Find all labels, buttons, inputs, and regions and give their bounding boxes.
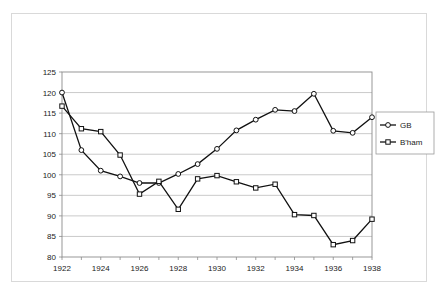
series-marker-b-ham: [60, 104, 64, 108]
x-tick-label: 1938: [363, 264, 381, 273]
series-marker-b-ham: [273, 182, 277, 186]
series-marker-b-ham: [195, 177, 199, 181]
series-marker-b-ham: [254, 186, 258, 190]
series-marker-gb: [273, 107, 278, 112]
y-tick-label: 110: [43, 130, 56, 139]
series-marker-gb: [137, 181, 142, 186]
y-tick-label: 120: [43, 89, 57, 98]
series-marker-b-ham: [350, 238, 354, 242]
series-marker-b-ham: [370, 217, 374, 221]
series-marker-b-ham: [99, 129, 103, 133]
chart-legend[interactable]: GBB'ham: [376, 112, 434, 154]
y-tick-label: 115: [43, 109, 56, 118]
y-tick-label: 105: [43, 150, 57, 159]
y-tick-label: 85: [47, 232, 56, 241]
chart-figure: 80859095100105110115120125 1922192419261…: [0, 0, 442, 294]
x-tick-label: 1932: [247, 264, 265, 273]
x-axis-tick-labels: 192219241926192819301932193419361938: [53, 264, 381, 273]
gridlines-group: [62, 93, 372, 237]
y-tick-label: 90: [47, 212, 56, 221]
x-tick-label: 1928: [169, 264, 187, 273]
x-tick-label: 1930: [208, 264, 226, 273]
y-tick-label: 100: [43, 171, 57, 180]
x-tickmarks-group: [62, 257, 372, 260]
plot-area-frame: [62, 72, 372, 257]
series-marker-gb: [215, 146, 220, 151]
series-line-gb: [62, 93, 372, 183]
series-marker-b-ham: [312, 213, 316, 217]
y-axis-tick-labels: 80859095100105110115120125: [43, 68, 57, 262]
x-tick-label: 1924: [92, 264, 110, 273]
x-tick-label: 1922: [53, 264, 71, 273]
x-tick-label: 1934: [286, 264, 304, 273]
series-marker-b-ham: [234, 180, 238, 184]
y-tick-label: 95: [47, 191, 56, 200]
series-marker-b-ham: [331, 242, 335, 246]
legend-box: [376, 112, 434, 154]
series-marker-b-ham: [118, 153, 122, 157]
series-marker-gb: [176, 172, 181, 177]
series-marker-gb: [60, 90, 65, 95]
series-marker-gb: [98, 168, 103, 173]
series-marker-b-ham: [79, 127, 83, 131]
series-marker-gb: [79, 148, 84, 153]
x-tick-label: 1936: [324, 264, 342, 273]
legend-swatch-marker-b-ham: [386, 140, 390, 144]
series-marker-gb: [350, 130, 355, 135]
series-marker-gb: [118, 174, 123, 179]
series-marker-b-ham: [137, 192, 141, 196]
series-marker-gb: [195, 162, 200, 167]
series-marker-gb: [234, 128, 239, 133]
series-marker-b-ham: [157, 179, 161, 183]
y-tick-label: 80: [47, 253, 56, 262]
series-marker-gb: [292, 109, 297, 114]
series-marker-gb: [311, 91, 316, 96]
legend-entry-label[interactable]: B'ham: [400, 138, 423, 147]
series-marker-b-ham: [176, 207, 180, 211]
data-series-layer: [60, 90, 375, 247]
x-tick-label: 1926: [131, 264, 149, 273]
legend-entry-label[interactable]: GB: [400, 121, 412, 130]
series-marker-gb: [253, 117, 258, 122]
plot-border: [62, 72, 372, 257]
line-chart: 80859095100105110115120125 1922192419261…: [0, 0, 442, 294]
legend-swatch-marker-gb: [386, 123, 391, 128]
series-marker-b-ham: [215, 173, 219, 177]
series-marker-b-ham: [292, 212, 296, 216]
series-marker-gb: [331, 128, 336, 133]
y-tick-label: 125: [43, 68, 57, 77]
series-marker-gb: [370, 115, 375, 120]
